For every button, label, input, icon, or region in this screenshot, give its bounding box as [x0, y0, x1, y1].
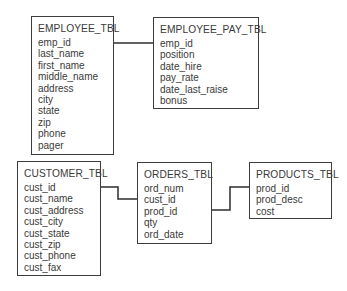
- table-title: EMPLOYEE_TBL: [38, 22, 113, 35]
- field-state: state: [38, 105, 113, 116]
- field-emp-id: emp_id: [38, 37, 113, 48]
- field-last-name: last_name: [38, 48, 113, 59]
- field-middle-name: middle_name: [38, 71, 113, 82]
- table-title: ORDERS_TBL: [144, 168, 211, 181]
- field-prod-id: prod_id: [256, 183, 331, 194]
- field-cust-phone: cust_phone: [24, 250, 100, 261]
- field-date-last-raise: date_last_raise: [160, 84, 258, 95]
- table-orders: ORDERS_TBL ord_num cust_id prod_id qty o…: [137, 162, 212, 244]
- field-emp-id: emp_id: [160, 38, 258, 49]
- field-cust-city: cust_city: [24, 216, 100, 227]
- table-title: EMPLOYEE_PAY_TBL: [160, 23, 258, 36]
- table-customer: CUSTOMER_TBL cust_id cust_name cust_addr…: [17, 161, 101, 276]
- field-cust-state: cust_state: [24, 228, 100, 239]
- table-title: CUSTOMER_TBL: [24, 167, 100, 180]
- field-city: city: [38, 94, 113, 105]
- field-prod-id: prod_id: [144, 206, 211, 217]
- field-zip: zip: [38, 117, 113, 128]
- field-qty: qty: [144, 217, 211, 228]
- field-position: position: [160, 49, 258, 60]
- field-address: address: [38, 83, 113, 94]
- field-cost: cost: [256, 206, 331, 217]
- field-pager: pager: [38, 140, 113, 151]
- field-cust-name: cust_name: [24, 193, 100, 204]
- link-orders-to-products: [211, 187, 249, 210]
- field-ord-num: ord_num: [144, 183, 211, 194]
- field-cust-fax: cust_fax: [24, 262, 100, 273]
- field-bonus: bonus: [160, 95, 258, 106]
- field-cust-zip: cust_zip: [24, 239, 100, 250]
- table-employee-pay: EMPLOYEE_PAY_TBL emp_id position date_hi…: [153, 17, 259, 109]
- field-ord-date: ord_date: [144, 229, 211, 240]
- link-customer-to-orders: [100, 187, 137, 199]
- field-pay-rate: pay_rate: [160, 72, 258, 83]
- table-title: PRODUCTS_TBL: [256, 168, 331, 181]
- field-first-name: first_name: [38, 60, 113, 71]
- field-cust-id: cust_id: [24, 182, 100, 193]
- field-cust-address: cust_address: [24, 205, 100, 216]
- field-prod-desc: prod_desc: [256, 194, 331, 205]
- field-date-hire: date_hire: [160, 61, 258, 72]
- field-cust-id: cust_id: [144, 194, 211, 205]
- field-phone: phone: [38, 128, 113, 139]
- table-employee: EMPLOYEE_TBL emp_id last_name first_name…: [31, 16, 114, 155]
- table-products: PRODUCTS_TBL prod_id prod_desc cost: [249, 162, 332, 219]
